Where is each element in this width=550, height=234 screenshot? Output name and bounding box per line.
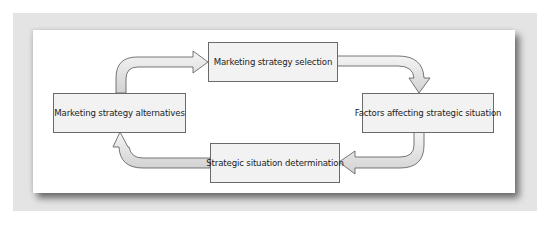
node-label: Marketing strategy selection [214, 57, 333, 67]
arrow-factors-to-determination [339, 132, 424, 174]
node-label: Strategic situation determination [206, 158, 344, 168]
arrow-alternatives-to-selection [116, 51, 208, 93]
node-marketing-strategy-selection: Marketing strategy selection [208, 42, 338, 82]
node-marketing-strategy-alternatives: Marketing strategy alternatives [53, 93, 186, 133]
figure-caption-cropped: ▬▬▬▬ ▬ ▬▬▬▬ [13, 229, 153, 234]
node-label: Marketing strategy alternatives [54, 108, 185, 118]
arrow-selection-to-factors [337, 56, 430, 93]
arrow-determination-to-alternatives [113, 132, 210, 168]
caption-fragment: ▬▬▬▬ ▬ ▬▬▬▬ [13, 229, 153, 234]
node-label: Factors affecting strategic situation [355, 108, 502, 118]
node-strategic-situation-determination: Strategic situation determination [210, 143, 340, 183]
node-factors-affecting-strategic-situation: Factors affecting strategic situation [362, 93, 494, 133]
